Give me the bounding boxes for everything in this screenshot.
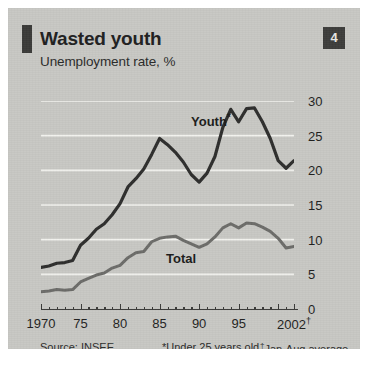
x-axis-tick-label: 95: [231, 316, 245, 331]
y-axis: 051015202530: [300, 101, 340, 309]
x-axis-major-tick: [120, 304, 121, 311]
y-axis-tick-label: 25: [308, 128, 322, 143]
x-axis-tick-label: 90: [192, 316, 206, 331]
series-label-youth-text: Youth: [191, 114, 227, 129]
x-axis-minor-tick: [144, 307, 145, 311]
x-axis-minor-tick: [128, 307, 129, 311]
x-axis-minor-tick: [168, 307, 169, 311]
chart-title: Wasted youth: [40, 28, 161, 50]
x-axis-major-tick: [160, 304, 161, 311]
x-axis-minor-tick: [207, 307, 208, 311]
chart-subtitle: Unemployment rate, %: [40, 54, 175, 69]
x-axis-minor-tick: [57, 307, 58, 311]
x-axis-minor-tick: [49, 307, 50, 311]
line-chart-svg: [41, 101, 294, 309]
x-axis-minor-tick: [247, 307, 248, 311]
x-axis-minor-tick: [136, 307, 137, 311]
x-axis-minor-tick: [223, 307, 224, 311]
x-axis-tick-label: 85: [152, 316, 166, 331]
series-label-youth: Youth*: [191, 112, 231, 129]
x-axis-tick-label: 2002†: [277, 316, 311, 332]
title-accent-bar: [22, 25, 32, 53]
x-axis-minor-tick: [231, 307, 232, 311]
x-axis-labels: 197075808590952002†: [8, 316, 360, 334]
x-axis-minor-tick: [262, 307, 263, 311]
x-axis-minor-tick: [112, 307, 113, 311]
x-axis-ticks: [41, 303, 294, 310]
youth-footnote-marker: *: [227, 112, 231, 123]
x-axis-tick-label: 75: [73, 316, 87, 331]
x-axis-major-tick: [41, 304, 42, 311]
x-axis-major-tick: [278, 304, 279, 311]
x-axis-minor-tick: [191, 307, 192, 311]
x-axis-minor-tick: [254, 307, 255, 311]
x-axis-minor-tick: [183, 307, 184, 311]
y-axis-tick-label: 20: [308, 163, 322, 178]
y-axis-tick-label: 10: [308, 232, 322, 247]
footnote-source: Source: INSEE: [40, 341, 114, 349]
x-axis-major-tick: [239, 304, 240, 311]
x-axis-tick-label: 80: [113, 316, 127, 331]
y-axis-tick-label: 15: [308, 198, 322, 213]
x-axis-minor-tick: [65, 307, 66, 311]
x-axis-minor-tick: [96, 307, 97, 311]
x-axis-major-tick: [81, 304, 82, 311]
dagger-note-text: Jan-Aug average: [264, 343, 348, 349]
x-axis-major-tick: [199, 304, 200, 311]
y-axis-tick-label: 5: [308, 267, 315, 282]
footnote-dagger: †Jan-Aug average: [260, 341, 348, 349]
x-label-dagger-marker: †: [306, 316, 311, 326]
y-axis-tick-label: 30: [308, 94, 322, 109]
chart-panel: 4 Wasted youth Unemployment rate, % Yout…: [8, 8, 360, 349]
x-axis-tick-label: 1970: [27, 316, 56, 331]
x-axis-minor-tick: [152, 307, 153, 311]
footnotes: Source: INSEE *Under 25 years old †Jan-A…: [8, 341, 360, 349]
x-axis-minor-tick: [175, 307, 176, 311]
footnote-star: *Under 25 years old: [162, 341, 259, 349]
x-axis-minor-tick: [73, 307, 74, 311]
chart-number-badge: 4: [323, 27, 345, 49]
x-axis-minor-tick: [88, 307, 89, 311]
y-axis-tick-label: 0: [308, 302, 315, 317]
x-axis-minor-tick: [104, 307, 105, 311]
series-line-youth: [41, 108, 294, 267]
x-axis-major-tick: [294, 304, 295, 311]
series-label-total: Total: [166, 251, 196, 266]
x-axis-minor-tick: [286, 307, 287, 311]
x-axis-minor-tick: [215, 307, 216, 311]
x-axis-minor-tick: [270, 307, 271, 311]
plot-area: [41, 101, 294, 309]
